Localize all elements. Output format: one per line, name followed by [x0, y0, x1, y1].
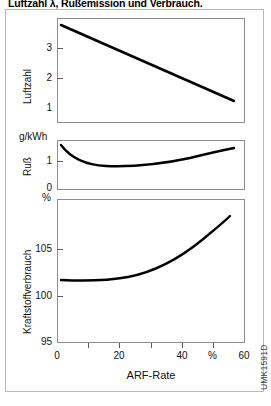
plot-area-kraftstoffverbrauch [57, 199, 245, 343]
ytick-mark [57, 296, 63, 297]
ytick-mark [57, 161, 63, 162]
xtick-mark [119, 343, 120, 348]
ytick-label-verbrauch-95: 95 [24, 336, 52, 347]
curve-svg-luftzahl [58, 19, 244, 122]
curve-svg-russ [58, 141, 244, 189]
ytick-mark [57, 48, 63, 49]
data-curve-kraftstoffverbrauch [61, 216, 230, 281]
ytick-mark [57, 78, 63, 79]
xaxis-title: ARF-Rate [92, 369, 210, 381]
curve-svg-kraftstoffverbrauch [58, 200, 244, 342]
ytick-label-luftzahl-3: 3 [28, 42, 52, 53]
xtick-mark-minor [151, 343, 152, 348]
xtick-mark [182, 343, 183, 348]
xtick-label-20: 20 [107, 350, 131, 361]
yaxis-unit-verbrauch: % [42, 192, 51, 203]
xtick-label-40: 40 [170, 350, 194, 361]
yaxis-title-russ: Ruß [22, 157, 33, 176]
xtick-label-60: 60 [232, 350, 256, 361]
plot-area-luftzahl [57, 18, 245, 123]
figure-title: Luftzahl λ, Rußemission und Verbrauch. [8, 0, 263, 9]
yaxis-title-luftzahl: Luftzahl [22, 69, 33, 104]
xtick-label-0: 0 [45, 350, 69, 361]
xtick-mark-minor [213, 343, 214, 348]
figure-root: Luftzahl λ, Rußemission und Verbrauch. 3… [0, 0, 271, 406]
data-curve-russ [61, 145, 234, 166]
figure-id-label: UMK1591D [259, 344, 269, 390]
ytick-mark [57, 249, 63, 250]
xtick-mark-minor [88, 343, 89, 348]
yaxis-unit-russ: g/kWh [19, 131, 47, 142]
plot-area-russ [57, 140, 245, 190]
data-curve-luftzahl [61, 25, 234, 101]
yaxis-title-kraftstoffverbrauch: Kraftstoffverbrauch [22, 250, 33, 334]
xaxis-unit: % [208, 350, 217, 361]
